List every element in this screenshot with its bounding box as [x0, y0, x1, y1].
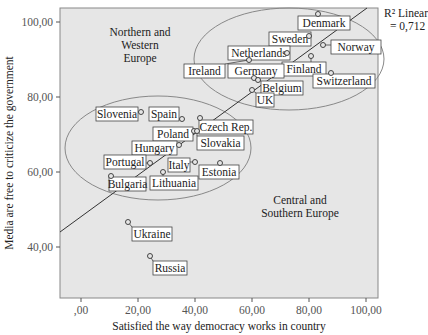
r2-value: = 0,712 [390, 20, 425, 33]
y-tick-100: 100,00 [21, 16, 53, 29]
svg-text:Central and: Central and [273, 194, 327, 206]
x-axis: ,00 20,00 40,00 60,00 80,00 100,00 [74, 298, 382, 317]
svg-text:Northern and: Northern and [110, 26, 171, 38]
point-marker [316, 12, 321, 17]
point-marker [193, 160, 198, 165]
point-label: Poland [157, 128, 189, 140]
svg-text:Southern Europe: Southern Europe [261, 207, 339, 220]
point-marker [195, 129, 200, 134]
point-label: Lithuania [152, 177, 196, 189]
point-marker [139, 110, 144, 115]
data-point-netherlands: Netherlands [228, 46, 290, 60]
point-marker [126, 220, 131, 225]
svg-text:Europe: Europe [123, 52, 156, 65]
point-label: Estonia [202, 166, 237, 178]
y-tick-40: 40,00 [27, 241, 53, 254]
point-marker [329, 71, 334, 76]
point-label: UK [257, 94, 274, 106]
x-axis-title: Satisfied the way democracy works in cou… [112, 320, 326, 333]
point-label: Czech Rep. [199, 121, 252, 134]
point-label: Bulgaria [108, 178, 148, 191]
x-tick-20: 20,00 [125, 304, 151, 317]
data-point-poland: Poland [153, 127, 197, 141]
point-marker [321, 43, 326, 48]
point-label: Spain [151, 108, 177, 121]
data-point-slovenia: Slovenia [96, 107, 144, 121]
data-point-sweden: Sweden [269, 32, 312, 46]
x-tick-60: 60,00 [239, 304, 265, 317]
point-marker [177, 143, 182, 148]
y-tick-80: 80,00 [27, 91, 53, 104]
point-label: Finland [286, 63, 321, 75]
x-tick-100: 100,00 [350, 304, 382, 317]
point-label: Netherlands [231, 47, 287, 59]
point-label: Ireland [188, 65, 221, 77]
y-axis-title: Media are free to criticize the governme… [3, 55, 16, 249]
point-marker [148, 254, 153, 259]
point-label: Portugal [106, 156, 145, 169]
point-marker [198, 116, 203, 121]
point-label: Norway [337, 41, 374, 54]
point-marker [250, 88, 255, 93]
point-marker [161, 170, 166, 175]
point-marker [180, 117, 185, 122]
point-label: Denmark [303, 17, 346, 29]
point-label: Hungary [134, 142, 174, 155]
svg-text:Western: Western [121, 39, 159, 51]
point-marker [256, 78, 261, 83]
plot-area [60, 8, 378, 298]
r2-label: R² Linear [384, 7, 428, 19]
x-tick-0: ,00 [74, 304, 89, 317]
point-label: Russia [155, 262, 186, 274]
point-marker [218, 161, 223, 166]
point-label: Slovakia [200, 137, 240, 149]
point-marker [285, 51, 290, 56]
scatter-chart: Northern and Western Europe Central and … [0, 0, 428, 335]
point-label: Ukraine [133, 228, 170, 240]
point-marker [247, 58, 252, 63]
data-point-spain: Spain [149, 107, 185, 122]
point-label: Slovenia [97, 108, 137, 120]
x-tick-80: 80,00 [296, 304, 322, 317]
point-label: Italy [168, 159, 189, 172]
point-label: Sweden [272, 33, 309, 45]
data-point-portugal: Portugal [104, 155, 153, 169]
point-marker [307, 34, 312, 39]
y-tick-60: 60,00 [27, 166, 53, 179]
point-marker [109, 174, 114, 179]
x-tick-40: 40,00 [182, 304, 208, 317]
point-marker [309, 54, 314, 59]
point-marker [148, 161, 153, 166]
data-point-hungary: Hungary [132, 141, 182, 155]
y-axis: 100,00 80,00 60,00 40,00 [21, 16, 60, 254]
point-label: Switzerland [317, 75, 372, 87]
